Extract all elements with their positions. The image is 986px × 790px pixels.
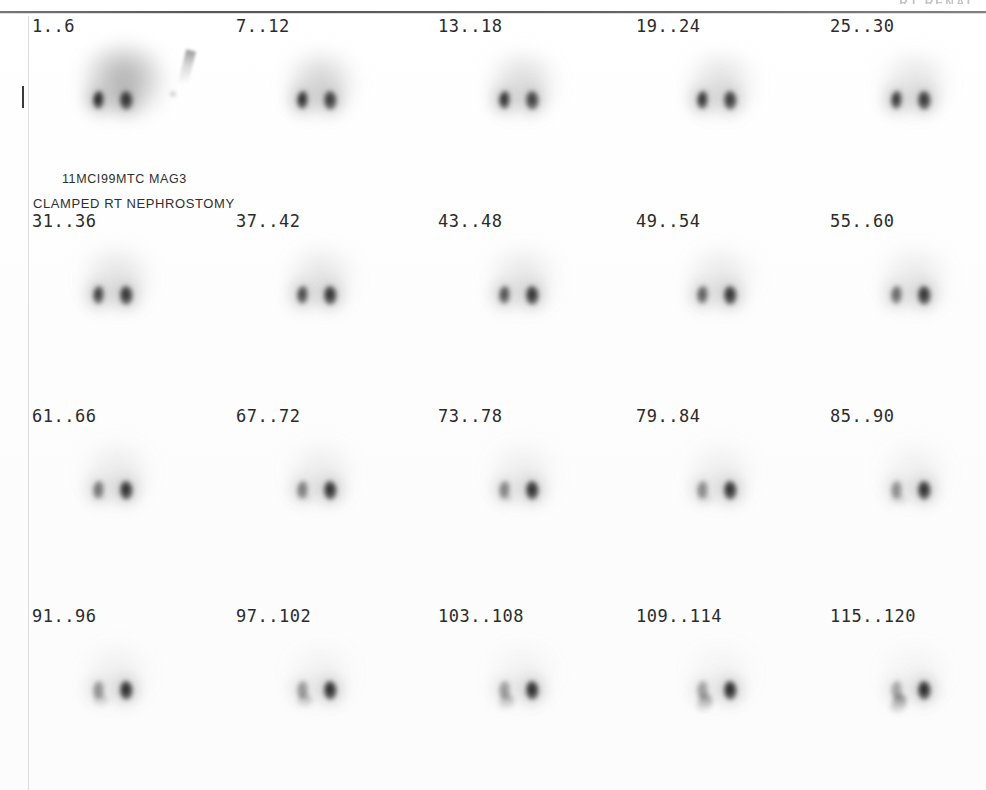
frame-range-label: 37..42	[236, 211, 300, 231]
kidney-activity-left	[891, 91, 902, 109]
kidney-activity-right	[120, 91, 133, 110]
frame-grid: 1..67..1213..1819..2425..3031..3637..424…	[0, 16, 986, 790]
frame-range-label: 31..36	[32, 211, 96, 231]
kidney-activity-right	[918, 481, 931, 500]
scan-frame-cell[interactable]: 85..90	[828, 406, 986, 601]
frame-range-label: 49..54	[636, 211, 700, 231]
activity-map	[234, 42, 430, 172]
frame-range-label: 7..12	[236, 16, 290, 36]
marker-dot	[171, 92, 175, 96]
kidney-activity-right	[724, 91, 737, 110]
frame-range-label: 73..78	[438, 406, 502, 426]
scan-frame-cell[interactable]: 73..78	[436, 406, 632, 601]
scintigraphy-frame	[436, 237, 632, 367]
kidney-activity-right	[526, 481, 539, 500]
activity-map	[234, 237, 430, 367]
scan-frame-cell[interactable]: 49..54	[634, 211, 830, 406]
frame-range-label: 19..24	[636, 16, 700, 36]
kidney-activity-right	[724, 481, 737, 500]
scan-frame-cell[interactable]: 109..114	[634, 606, 830, 790]
calibration-marker-streak	[178, 49, 196, 84]
scan-frame-cell[interactable]: 19..24	[634, 16, 830, 211]
kidney-activity-left	[697, 286, 708, 304]
scan-frame-cell[interactable]: 61..66	[30, 406, 226, 601]
frame-range-label: 1..6	[32, 16, 75, 36]
scan-frame-cell[interactable]: 55..60	[828, 211, 986, 406]
activity-map	[634, 632, 830, 762]
study-annotation-dose: 11MCI99MTC MAG3	[62, 172, 187, 186]
kidney-activity-left	[93, 91, 104, 109]
kidney-activity-right	[918, 681, 931, 700]
scan-frame-cell[interactable]: 7..12	[234, 16, 430, 211]
frame-range-label: 43..48	[438, 211, 502, 231]
kidney-activity-right	[324, 681, 337, 700]
activity-map	[436, 42, 632, 172]
scintigraphy-frame	[634, 42, 830, 172]
scintigraphy-frame	[436, 42, 632, 172]
scintigraphy-frame	[436, 632, 632, 762]
scintigraphy-frame	[234, 237, 430, 367]
kidney-activity-left	[93, 286, 104, 304]
activity-map	[828, 632, 986, 762]
kidney-activity-left	[891, 286, 902, 304]
frame-range-label: 103..108	[438, 606, 524, 626]
kidney-activity-right	[324, 286, 337, 305]
activity-map	[828, 432, 986, 562]
frame-range-label: 55..60	[830, 211, 894, 231]
scintigraphy-frame	[828, 42, 986, 172]
kidney-activity-right	[526, 681, 539, 700]
scintigraphy-frame	[30, 42, 226, 172]
frame-range-label: 115..120	[830, 606, 916, 626]
kidney-activity-left	[297, 286, 308, 304]
kidney-activity-left	[499, 286, 510, 304]
scintigraphy-frame	[30, 632, 226, 762]
activity-map	[634, 42, 830, 172]
frame-range-label: 97..102	[236, 606, 311, 626]
frame-range-label: 91..96	[32, 606, 96, 626]
activity-map	[30, 42, 226, 172]
kidney-activity-left	[297, 91, 308, 109]
scintigraphy-frame	[234, 42, 430, 172]
scan-frame-cell[interactable]: 79..84	[634, 406, 830, 601]
frame-range-label: 67..72	[236, 406, 300, 426]
scintigraphy-frame	[634, 237, 830, 367]
scan-frame-cell[interactable]: 103..108	[436, 606, 632, 790]
frame-range-label: 61..66	[32, 406, 96, 426]
scintigraphy-frame	[30, 432, 226, 562]
top-divider-rule-shadow	[0, 13, 986, 14]
activity-map	[436, 632, 632, 762]
scintigraphy-frame	[634, 432, 830, 562]
scan-frame-cell[interactable]: 97..102	[234, 606, 430, 790]
kidney-activity-right	[120, 286, 133, 305]
kidney-activity-right	[918, 286, 931, 305]
frame-range-label: 13..18	[438, 16, 502, 36]
activity-map	[234, 632, 430, 762]
scan-frame-cell[interactable]: 13..18	[436, 16, 632, 211]
kidney-activity-right	[120, 681, 133, 700]
scan-frame-cell[interactable]: 91..96	[30, 606, 226, 790]
left-edge-tick-mark	[22, 86, 24, 108]
frame-range-label: 85..90	[830, 406, 894, 426]
kidney-activity-right	[324, 91, 337, 110]
study-annotation-condition: CLAMPED RT NEPHROSTOMY	[33, 196, 235, 211]
activity-map	[30, 632, 226, 762]
kidney-activity-right	[526, 286, 539, 305]
scintigraphy-frame	[828, 632, 986, 762]
scan-frame-cell[interactable]: 67..72	[234, 406, 430, 601]
scan-frame-cell[interactable]: 31..36	[30, 211, 226, 406]
scan-frame-cell[interactable]: 115..120	[828, 606, 986, 790]
activity-map	[634, 237, 830, 367]
scintigraphy-frame	[828, 237, 986, 367]
scintigraphy-frame	[634, 632, 830, 762]
scan-sheet: RT RENAL 1..67..1213..1819..2425..3031..…	[0, 0, 986, 790]
scan-frame-cell[interactable]: 25..30	[828, 16, 986, 211]
activity-map	[828, 237, 986, 367]
scan-frame-cell[interactable]: 43..48	[436, 211, 632, 406]
scintigraphy-frame	[234, 432, 430, 562]
scan-frame-cell[interactable]: 37..42	[234, 211, 430, 406]
kidney-activity-right	[724, 681, 737, 700]
frame-row: 61..6667..7273..7879..8485..90	[0, 406, 986, 601]
kidney-activity-right	[724, 286, 737, 305]
activity-map	[30, 432, 226, 562]
frame-range-label: 79..84	[636, 406, 700, 426]
